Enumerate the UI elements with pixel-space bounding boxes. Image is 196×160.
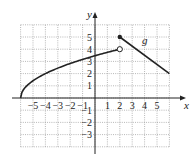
x-tick-label: −3 [52,100,63,111]
graph-of-g: −5−4−3−2−11234554321−1−2−3 x y g [0,0,196,160]
axes [12,12,186,154]
y-tick-label: 5 [87,32,92,43]
function-label-g: g [142,34,148,46]
y-tick-label: −1 [81,105,92,116]
x-tick-label: 2 [117,100,122,111]
x-tick-label: 4 [142,100,147,111]
y-tick-label: 4 [87,44,92,55]
y-axis-label: y [86,8,92,20]
x-tick-label: 3 [130,100,135,111]
x-tick-label: 1 [105,100,110,111]
open-endpoint [117,47,122,52]
y-tick-label: 1 [87,80,92,91]
closed-endpoint [118,35,122,39]
y-tick-label: 2 [87,68,92,79]
y-tick-label: −3 [81,129,92,140]
x-tick-label: −5 [28,100,39,111]
x-tick-label: 5 [155,100,160,111]
x-tick-label: −4 [40,100,51,111]
x-axis-label: x [183,99,189,111]
x-tick-label: −2 [65,100,76,111]
y-tick-label: −2 [81,117,92,128]
